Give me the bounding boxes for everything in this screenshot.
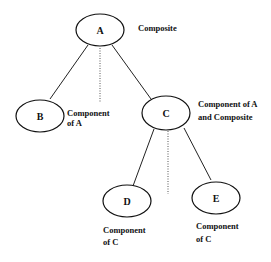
edge-a-b xyxy=(50,45,88,99)
node-d: D xyxy=(103,185,151,217)
node-c: C xyxy=(142,96,190,130)
annotation-c-line2: and Composite xyxy=(198,112,253,122)
edge-c-e xyxy=(184,128,211,180)
node-a: A xyxy=(76,14,124,46)
node-d-label: D xyxy=(123,196,130,207)
annotation-b-line2: of A xyxy=(67,118,83,128)
node-b: B xyxy=(16,100,64,132)
node-b-label: B xyxy=(37,111,44,122)
annotation-e-line1: Component xyxy=(196,221,239,231)
node-a-label: A xyxy=(96,25,104,36)
annotation-e-line2: of C xyxy=(196,234,211,244)
annotation-b-line1: Component xyxy=(67,108,110,118)
annotation-a-line1: Composite xyxy=(138,23,177,33)
composite-diagram: A B C D E Composite Component of A Compo… xyxy=(0,0,271,262)
edge-a-c xyxy=(112,45,151,99)
node-c-label: C xyxy=(162,108,169,119)
node-e: E xyxy=(192,182,240,214)
node-e-label: E xyxy=(213,193,220,204)
annotation-d-line1: Component xyxy=(103,225,146,235)
annotation-c-line1: Component of A xyxy=(198,99,258,109)
edge-c-d xyxy=(133,129,154,186)
annotation-d-line2: of C xyxy=(103,237,118,247)
